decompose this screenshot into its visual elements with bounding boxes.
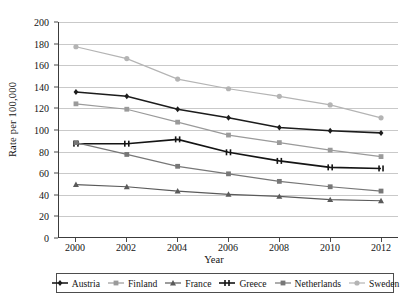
- data-point: [74, 140, 79, 145]
- data-point: [277, 140, 282, 145]
- data-point: [277, 179, 282, 184]
- data-point: [277, 125, 282, 131]
- data-point: [124, 93, 129, 99]
- data-point: [175, 106, 180, 112]
- data-point: [73, 44, 78, 49]
- data-point: [226, 86, 231, 91]
- x-axis-tick-mark: [126, 238, 127, 242]
- data-point: [226, 133, 231, 138]
- data-point: [124, 152, 129, 157]
- data-point: [175, 164, 180, 169]
- legend-marker-icon: [274, 278, 292, 288]
- x-axis-tick-label: 2000: [65, 242, 85, 253]
- data-point: [226, 171, 231, 176]
- legend-item-greece[interactable]: Greece: [218, 278, 266, 289]
- series-line: [76, 47, 381, 118]
- legend-marker-icon: [348, 278, 366, 288]
- x-axis-tick-mark: [177, 238, 178, 242]
- data-point: [226, 115, 231, 121]
- x-axis-title-text: Year: [204, 254, 223, 265]
- legend-marker-icon: [218, 278, 236, 288]
- legend-item-sweden[interactable]: Sweden: [348, 278, 399, 289]
- x-axis-tick-label: 2012: [371, 242, 391, 253]
- x-axis-tick-label: 2002: [116, 242, 136, 253]
- x-axis-tick-mark: [330, 238, 331, 242]
- y-axis-tick-label: 140: [34, 81, 49, 92]
- legend-item-netherlands[interactable]: Netherlands: [274, 278, 341, 289]
- y-axis-tick-label: 60: [39, 168, 49, 179]
- legend-label: Austria: [72, 278, 100, 289]
- series-austria: [74, 89, 384, 136]
- chart-legend: AustriaFinlandFranceGreeceNetherlandsSwe…: [56, 273, 394, 293]
- x-axis-tick-mark: [381, 238, 382, 242]
- data-point: [378, 115, 383, 120]
- legend-label: Sweden: [369, 278, 399, 289]
- legend-label: Finland: [128, 278, 157, 289]
- data-point: [328, 102, 333, 107]
- y-axis-tick-label: 120: [34, 103, 49, 114]
- data-point: [328, 128, 333, 134]
- data-point: [379, 154, 384, 159]
- data-point: [124, 56, 129, 61]
- y-axis-tick-label: 200: [34, 17, 49, 28]
- legend-item-france[interactable]: France: [164, 278, 211, 289]
- x-axis-title: Year: [58, 254, 398, 265]
- data-point: [379, 189, 384, 194]
- plot-area: [58, 22, 398, 238]
- series-finland: [74, 101, 384, 159]
- legend-item-finland[interactable]: Finland: [107, 278, 157, 289]
- data-point: [379, 130, 384, 136]
- x-axis-tick-label: 2004: [167, 242, 187, 253]
- data-point: [328, 148, 333, 153]
- x-axis-tick-label: 2006: [218, 242, 238, 253]
- y-axis-tick-label: 80: [39, 146, 49, 157]
- data-point: [175, 76, 180, 81]
- y-axis-tick-labels: 020406080100120140160180200: [18, 0, 54, 304]
- y-axis-title-text: Rate per 100,000: [8, 81, 19, 156]
- legend-item-austria[interactable]: Austria: [51, 278, 100, 289]
- x-axis-tick-label: 2008: [269, 242, 289, 253]
- series-line: [76, 139, 381, 168]
- series-greece: [73, 136, 384, 171]
- legend-label: Greece: [239, 278, 266, 289]
- x-axis-tick-mark: [228, 238, 229, 242]
- y-axis-tick-label: 100: [34, 125, 49, 136]
- series-france: [73, 182, 384, 204]
- series-line: [76, 92, 381, 133]
- y-axis-tick-label: 160: [34, 60, 49, 71]
- x-axis-tick-label: 2010: [320, 242, 340, 253]
- y-axis-tick-label: 180: [34, 38, 49, 49]
- y-axis-tick-label: 0: [44, 233, 49, 244]
- y-axis-tick-label: 40: [39, 189, 49, 200]
- data-point: [328, 184, 333, 189]
- x-axis-tick-mark: [279, 238, 280, 242]
- data-point: [74, 101, 79, 106]
- legend-marker-icon: [164, 278, 182, 288]
- legend-label: Netherlands: [295, 278, 341, 289]
- line-chart-figure: Rate per 100,000 02040608010012014016018…: [0, 0, 412, 304]
- x-axis-tick-mark: [75, 238, 76, 242]
- y-axis-tick-label: 20: [39, 211, 49, 222]
- series-layer: [59, 22, 398, 237]
- legend-marker-icon: [51, 278, 69, 288]
- data-point: [124, 107, 129, 112]
- data-point: [175, 120, 180, 125]
- data-point: [277, 94, 282, 99]
- data-point: [74, 89, 79, 95]
- legend-label: France: [185, 278, 211, 289]
- legend-marker-icon: [107, 278, 125, 288]
